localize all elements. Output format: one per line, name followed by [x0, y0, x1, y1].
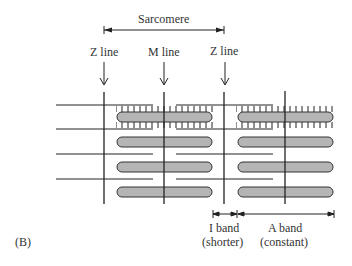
- a-band-label: A band: [268, 222, 302, 235]
- z-line-right-label: Z line: [210, 45, 238, 58]
- z-line-left-label: Z line: [90, 46, 118, 59]
- i-band-note: (shorter): [202, 236, 243, 249]
- z-line-left-pointer-arrow: [100, 62, 108, 85]
- a-band-arrow: [238, 210, 334, 218]
- sarcomere-span-arrow: [104, 26, 224, 34]
- a-band-note: (constant): [260, 236, 308, 249]
- i-band-label: I band: [209, 222, 239, 235]
- i-band-arrow: [213, 210, 237, 218]
- m-line-label: M line: [148, 46, 180, 59]
- m-line-pointer-arrow: [160, 62, 168, 85]
- z-line-right-pointer-arrow: [221, 62, 229, 85]
- panel-label: (B): [15, 236, 31, 249]
- sarcomere-label: Sarcomere: [138, 13, 189, 26]
